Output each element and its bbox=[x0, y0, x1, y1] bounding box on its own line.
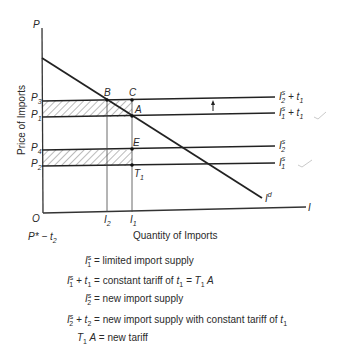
point-label-e: E bbox=[133, 137, 140, 148]
check-mark-icon bbox=[298, 160, 312, 167]
legend-row-limited-supply: Is1 = limited import supply bbox=[85, 254, 194, 268]
up-arrow-icon bbox=[211, 100, 215, 111]
hatched-area-lower bbox=[42, 150, 132, 166]
legend-row-new-supply: Is2 = new import supply bbox=[85, 292, 183, 306]
legend-row-new-supply-with-tariff: Is2 + t2 = new import supply with consta… bbox=[67, 313, 287, 327]
y-axis bbox=[42, 28, 43, 213]
check-mark-icon bbox=[314, 112, 326, 119]
supply-line-i2s-plus-t1 bbox=[42, 97, 275, 101]
price-label-p1: P1 bbox=[31, 109, 42, 122]
point-b bbox=[105, 98, 109, 102]
point-label-c: C bbox=[129, 87, 137, 98]
price-label-p3: P3 bbox=[31, 92, 42, 105]
curve-label-i2s-plus-t1: Is2 + t1 bbox=[279, 89, 303, 104]
curve-label-i1s-plus-t1: Is1 + t1 bbox=[279, 105, 303, 120]
x-axis-title: Quantity of Imports bbox=[133, 230, 217, 241]
origin-label: O bbox=[32, 213, 40, 224]
hatched-area-upper bbox=[42, 101, 132, 117]
point-t1 bbox=[130, 163, 134, 167]
price-label-p4: P4 bbox=[31, 142, 42, 155]
price-label-p2: P2 bbox=[31, 158, 42, 171]
x-axis-label: I bbox=[308, 202, 311, 213]
point-label-a: A bbox=[134, 104, 142, 115]
curve-label-i2s: Is2 bbox=[279, 138, 286, 153]
curve-label-id: Id bbox=[265, 191, 273, 204]
x-axis bbox=[43, 207, 306, 213]
point-a bbox=[130, 114, 134, 118]
curve-label-i1s: Is1 bbox=[279, 155, 286, 170]
legend-row-new-tariff: T1 A = new tariff bbox=[77, 332, 148, 345]
note-p-star-minus-t2: P* − t2 bbox=[28, 231, 57, 244]
y-axis-label: P bbox=[33, 19, 40, 30]
y-axis-title: Price of Imports bbox=[16, 85, 27, 155]
point-label-b: B bbox=[104, 87, 111, 98]
point-label-t1: T1 bbox=[134, 168, 144, 181]
legend-row-constant-tariff: Is1 + t1 = constant tariff of t1 = T1 A bbox=[67, 274, 214, 288]
demand-line-id bbox=[42, 58, 262, 198]
quantity-label-i2: I2 bbox=[104, 214, 111, 227]
point-c bbox=[130, 98, 134, 102]
quantity-label-i1: I1 bbox=[130, 214, 137, 227]
supply-line-i2s bbox=[42, 146, 275, 150]
